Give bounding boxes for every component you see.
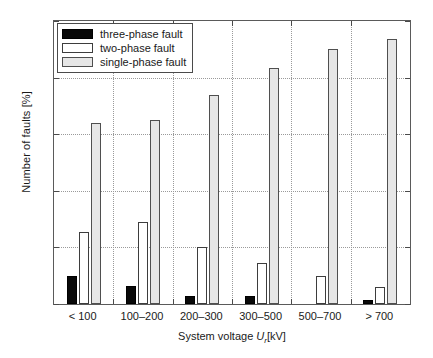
bar-two-phase-fault-300–500 xyxy=(257,263,267,304)
chart-legend: three-phase faulttwo-phase faultsingle-p… xyxy=(57,23,193,73)
x-axis-tick-label: 200–300 xyxy=(180,310,223,322)
bar-single-phase-fault-100–200 xyxy=(150,120,160,304)
chart-figure: Number of faults [%] 020406080100< 10010… xyxy=(0,0,433,358)
legend-item[interactable]: three-phase fault xyxy=(62,27,186,41)
legend-swatch-icon xyxy=(62,43,93,53)
bar-single-phase-fault-<100 xyxy=(91,123,101,304)
bar-two-phase-fault-200–300 xyxy=(197,247,207,304)
bar-three-phase-fault-200–300 xyxy=(185,296,195,304)
legend-item[interactable]: single-phase fault xyxy=(62,55,186,69)
bar-two-phase-fault-<100 xyxy=(79,232,89,304)
x-axis-tick-label: < 100 xyxy=(69,310,97,322)
bar-three-phase-fault->700 xyxy=(363,300,373,304)
legend-item-label: three-phase fault xyxy=(100,28,183,40)
bar-single-phase-fault->700 xyxy=(387,39,397,304)
bar-single-phase-fault-500–700 xyxy=(328,49,338,304)
legend-swatch-icon xyxy=(62,57,93,67)
x-axis-unit: [kV] xyxy=(267,330,286,342)
x-axis-title: System voltage Ur[kV] xyxy=(53,330,411,345)
y-axis-tick xyxy=(54,304,59,305)
y-axis-title: Number of faults [%] xyxy=(20,32,32,252)
x-axis-tick-label: 300–500 xyxy=(239,310,282,322)
legend-item[interactable]: two-phase fault xyxy=(62,41,186,55)
x-axis-title-text: System voltage xyxy=(178,330,256,342)
x-axis-tick-label: > 700 xyxy=(365,310,393,322)
bar-two-phase-fault-500–700 xyxy=(316,276,326,304)
bar-three-phase-fault-300–500 xyxy=(245,296,255,304)
bar-single-phase-fault-200–300 xyxy=(209,95,219,304)
y-axis-tick xyxy=(405,304,410,305)
legend-item-label: single-phase fault xyxy=(100,56,186,68)
bar-two-phase-fault->700 xyxy=(375,287,385,304)
legend-swatch-icon xyxy=(62,29,93,39)
x-axis-tick-label: 500–700 xyxy=(299,310,342,322)
bar-three-phase-fault-<100 xyxy=(67,276,77,304)
x-axis-tick-label: 100–200 xyxy=(121,310,164,322)
bar-two-phase-fault-100–200 xyxy=(138,222,148,304)
bar-three-phase-fault-100–200 xyxy=(126,286,136,304)
bar-single-phase-fault-300–500 xyxy=(269,68,279,304)
legend-item-label: two-phase fault xyxy=(100,42,175,54)
